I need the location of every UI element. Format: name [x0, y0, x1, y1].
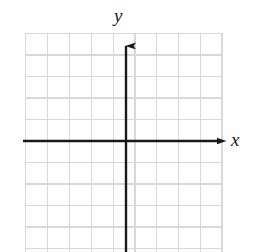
figure-canvas: y x	[0, 0, 254, 252]
y-axis-label: y	[114, 6, 122, 25]
x-axis-label: x	[231, 130, 239, 149]
coordinate-grid-figure	[0, 0, 254, 252]
